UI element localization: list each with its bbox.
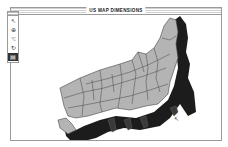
zoom-tool-icon[interactable]: ⊕ bbox=[8, 26, 18, 34]
mouse-cursor-icon: ↖ bbox=[174, 115, 179, 122]
tool-palette: ↖ ⊕ ☜ ↻ ▤ bbox=[7, 11, 19, 63]
extrude-tool-icon[interactable]: ▤ bbox=[8, 53, 18, 61]
arrow-tool-icon[interactable]: ↖ bbox=[8, 17, 18, 25]
hand-tool-icon[interactable]: ☜ bbox=[8, 35, 18, 43]
palette-drag-bar[interactable] bbox=[8, 12, 18, 16]
us-map-3d[interactable] bbox=[20, 8, 220, 140]
rotate-tool-icon[interactable]: ↻ bbox=[8, 44, 18, 52]
